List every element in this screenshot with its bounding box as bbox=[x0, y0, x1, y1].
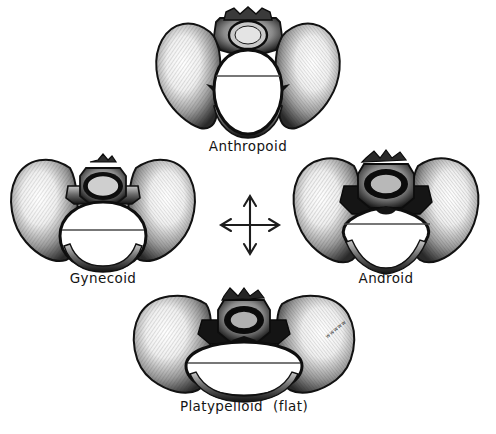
platypelloid-drawing bbox=[128, 286, 360, 404]
pelvis-label-gynecoid: Gynecoid bbox=[8, 270, 198, 286]
pelvis-anthropoid: Anthropoid bbox=[148, 2, 348, 162]
gynecoid-drawing bbox=[8, 146, 198, 274]
four-way-arrow-cross-icon bbox=[220, 193, 280, 257]
pelvis-label-anthropoid-text: Anthropoid bbox=[209, 138, 287, 154]
anthropoid-bone bbox=[156, 7, 340, 138]
android-bone bbox=[294, 150, 479, 274]
pelvis-label-android: Android bbox=[288, 270, 484, 286]
android-drawing bbox=[288, 146, 484, 274]
anthropoid-drawing bbox=[148, 2, 348, 142]
pelvis-label-platypelloid-note: (flat) bbox=[273, 398, 308, 414]
pelvis-label-platypelloid-text: Platypelloid bbox=[180, 398, 263, 414]
pelvis-gynecoid: Gynecoid bbox=[8, 146, 198, 296]
platypelloid-bone bbox=[134, 288, 354, 402]
pelvis-label-android-text: Android bbox=[359, 270, 414, 286]
pelvis-label-platypelloid: Platypelloid(flat) bbox=[128, 398, 360, 414]
pelvis-types-illustration: Anthropoid bbox=[0, 0, 496, 434]
gynecoid-bone bbox=[11, 154, 195, 272]
pelvis-label-gynecoid-text: Gynecoid bbox=[70, 270, 137, 286]
pelvis-platypelloid: Platypelloid(flat) bbox=[128, 286, 360, 431]
pelvis-android: Android bbox=[288, 146, 484, 296]
